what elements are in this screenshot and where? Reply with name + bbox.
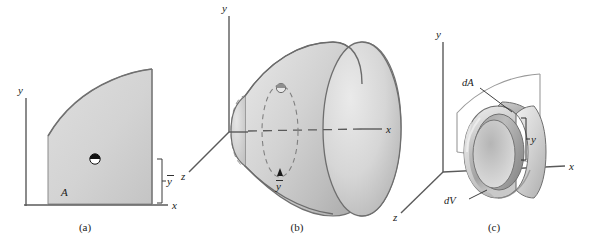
panel-a-y-axis-label: y — [17, 84, 23, 96]
panel-a-x-axis-label: x — [171, 199, 177, 211]
panel-b-z-axis-label: z — [180, 170, 186, 182]
panel-c-z-axis-label: z — [392, 211, 398, 223]
svg-text:y: y — [166, 175, 172, 187]
panel-c-volume-element-label: dV — [444, 195, 457, 206]
panel-c-ring-radius-label: y — [530, 133, 536, 145]
panel-c-ring-element — [464, 102, 546, 198]
panel-b-x-axis-label: x — [385, 123, 391, 135]
panel-b-caption: (b) — [291, 221, 304, 234]
ring-hole-opening — [473, 120, 515, 188]
panel-a-area-label: A — [60, 186, 68, 198]
panel-c-area-element-label: dA — [462, 77, 474, 88]
panel-c: y x z dA — [392, 28, 574, 234]
plane-area-shape — [48, 69, 152, 204]
panel-a: y x A y (a) — [17, 69, 177, 234]
panel-a-centroid-height-bracket — [157, 159, 166, 203]
panel-b: y z x y — [180, 2, 401, 234]
panel-c-z-axis — [401, 172, 443, 213]
panel-b-z-axis — [189, 132, 229, 172]
panel-a-centroid-marker — [90, 154, 100, 164]
panel-b-centroid-marker — [276, 83, 285, 92]
panel-c-y-axis-label: y — [435, 28, 441, 40]
svg-text:y: y — [275, 180, 281, 192]
panel-a-caption: (a) — [79, 221, 92, 234]
panel-a-centroid-height-label: y — [166, 175, 174, 187]
panel-b-y-axis-label: y — [221, 2, 227, 14]
panel-c-x-axis-label: x — [568, 160, 574, 172]
panel-c-caption: (c) — [488, 221, 501, 234]
panel-b-small-nose-cap — [231, 96, 245, 166]
figure-root: y x A y (a) y z — [0, 0, 601, 241]
